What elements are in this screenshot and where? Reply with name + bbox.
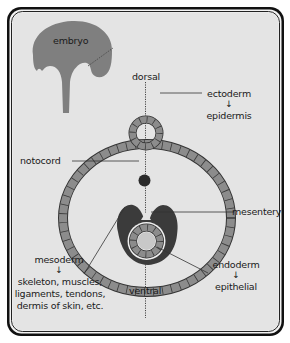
- arrow-down-icon: ↓: [208, 271, 264, 280]
- label-notocord: notocord: [20, 155, 61, 166]
- label-embryo: embryo: [53, 35, 88, 46]
- label-dorsal: dorsal: [132, 71, 160, 82]
- notocord-structure: [139, 175, 151, 187]
- label-mesoderm: mesoderm: [18, 254, 100, 265]
- label-mesentery: mesentery: [232, 206, 281, 217]
- label-mesoderm-product-2: ligaments, tendons,: [14, 288, 106, 299]
- label-ectoderm: ectoderm: [203, 88, 255, 99]
- label-mesoderm-product-1: skeleton, muscles,: [14, 276, 106, 287]
- label-epidermis: epidermis: [203, 110, 255, 121]
- label-endoderm: endoderm: [208, 259, 264, 270]
- diagram-canvas: embryo dorsal ectoderm ↓ epidermis notoc…: [0, 0, 290, 343]
- label-mesoderm-product-3: dermis of skin, etc.: [14, 300, 106, 311]
- label-epithelial: epithelial: [208, 281, 264, 292]
- arrow-down-icon: ↓: [203, 100, 255, 109]
- gut-tube: [128, 222, 166, 260]
- arrow-down-icon: ↓: [18, 266, 100, 275]
- label-ventral: ventral: [129, 285, 161, 296]
